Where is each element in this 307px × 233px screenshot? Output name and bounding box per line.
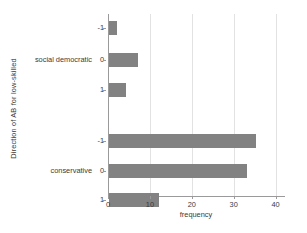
y-tick-mark [103, 171, 106, 172]
x-axis-title: frequency [108, 210, 284, 219]
gridline-x-40 [276, 14, 277, 196]
bar [109, 164, 247, 178]
y-tick-mark [103, 141, 106, 142]
y-tick-mark [103, 60, 106, 61]
plot-area [108, 14, 284, 196]
y-axis-title-container: Direction of AB for low-skilled [0, 0, 26, 233]
bar [109, 53, 138, 67]
x-tick-label: 20 [188, 200, 196, 209]
group-label: social democratic [35, 55, 92, 64]
bar [109, 21, 117, 35]
x-tick-mark [192, 196, 193, 199]
group-label: conservative [51, 166, 93, 175]
bar-chart-figure: Direction of AB for low-skilled social d… [0, 0, 307, 233]
x-tick-label: 0 [106, 200, 110, 209]
x-tick-mark [108, 196, 109, 199]
y-axis-title: Direction of AB for low-skilled [9, 24, 18, 194]
group-label-container: social democraticconservative [26, 0, 92, 233]
bar [109, 83, 126, 97]
x-tick-mark [234, 196, 235, 199]
x-tick-label: 30 [230, 200, 238, 209]
x-tick-label: 40 [271, 200, 279, 209]
x-tick-mark [276, 196, 277, 199]
y-tick-mark [103, 28, 106, 29]
x-tick-mark [150, 196, 151, 199]
x-tick-label: 10 [146, 200, 154, 209]
y-tick-mark [103, 90, 106, 91]
y-tick-label-container: -101-101 [92, 0, 106, 233]
bar [109, 134, 256, 148]
